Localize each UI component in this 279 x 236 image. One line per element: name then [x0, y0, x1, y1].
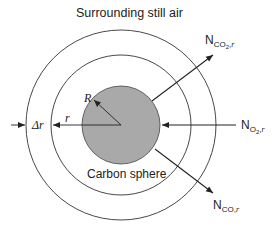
- flux-co-label: NCO,r: [213, 198, 239, 214]
- radius-r-label: r: [65, 111, 70, 126]
- carbon-sphere-label: Carbon sphere: [87, 167, 166, 181]
- flux-o2-label: NO2,r: [241, 118, 265, 135]
- flux-co2-label: NCO2,r: [205, 33, 234, 50]
- radius-R-label: R: [84, 91, 91, 106]
- surrounding-air-label: Surrounding still air: [76, 6, 183, 20]
- delta-r-label: Δr: [32, 118, 44, 133]
